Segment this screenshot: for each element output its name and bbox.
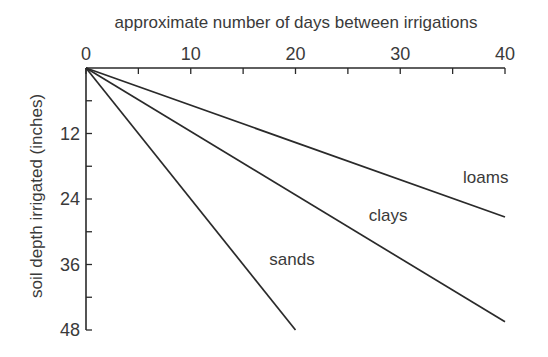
y-tick-label: 36: [60, 255, 80, 275]
series-line-sands: [86, 68, 296, 330]
series-labels: loamsclayssands: [269, 168, 508, 269]
x-tick-label: 40: [495, 44, 515, 64]
y-tick-label: 24: [60, 189, 80, 209]
x-tick-label: 20: [285, 44, 305, 64]
y-tick-label: 12: [60, 124, 80, 144]
y-axis-ticks: 12243648: [60, 101, 92, 340]
x-tick-label: 0: [81, 44, 91, 64]
x-tick-label: 30: [390, 44, 410, 64]
y-axis-label: soil depth irrigated (inches): [27, 94, 46, 298]
line-chart: approximate number of days between irrig…: [0, 0, 548, 357]
label-loams: loams: [463, 168, 508, 187]
chart: approximate number of days between irrig…: [0, 0, 548, 357]
y-tick-label: 48: [60, 320, 80, 340]
x-tick-label: 10: [181, 44, 201, 64]
label-clays: clays: [369, 206, 408, 225]
label-sands: sands: [269, 250, 314, 269]
x-axis-ticks: 010203040: [81, 44, 515, 74]
series-lines: [86, 68, 505, 330]
x-axis-label: approximate number of days between irrig…: [115, 13, 478, 32]
